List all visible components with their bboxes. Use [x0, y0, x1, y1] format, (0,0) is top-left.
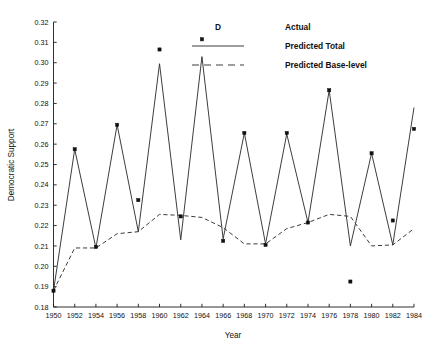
legend-marker-actual: D — [215, 22, 221, 32]
x-tick-label: 1966 — [215, 311, 231, 320]
x-tick-label: 1958 — [130, 311, 146, 320]
y-tick-labels: 0.180.190.200.210.220.230.240.250.260.27… — [35, 18, 49, 312]
y-tick-label: 0.21 — [35, 242, 49, 251]
y-axis-ticks — [54, 22, 57, 307]
x-tick-label: 1956 — [109, 311, 125, 320]
y-tick-label: 0.25 — [35, 160, 49, 169]
x-tick-label: 1972 — [279, 311, 295, 320]
y-tick-label: 0.23 — [35, 201, 49, 210]
x-tick-labels: 1950195219541956195819601962196419661968… — [46, 311, 423, 320]
y-tick-label: 0.28 — [35, 99, 49, 108]
data-point-actual — [222, 239, 225, 242]
x-tick-label: 1984 — [406, 311, 422, 320]
data-point-actual — [349, 280, 352, 283]
legend-label: Predicted Base-level — [285, 60, 367, 70]
chart-plot-area: 0.180.190.200.210.220.230.240.250.260.27… — [0, 0, 434, 345]
x-axis-ticks — [54, 304, 415, 307]
x-tick-label: 1978 — [342, 311, 358, 320]
series-predicted-base-level — [54, 214, 415, 290]
series-predicted-total — [54, 57, 415, 291]
data-point-actual — [158, 48, 161, 51]
data-point-actual — [370, 152, 373, 155]
data-point-actual — [179, 215, 182, 218]
legend-label: Predicted Total — [285, 41, 345, 51]
x-tick-label: 1968 — [236, 311, 252, 320]
y-tick-label: 0.26 — [35, 140, 49, 149]
x-tick-label: 1954 — [88, 311, 104, 320]
y-tick-label: 0.32 — [35, 18, 49, 27]
x-tick-label: 1974 — [300, 311, 316, 320]
x-tick-label: 1976 — [321, 311, 337, 320]
y-tick-label: 0.20 — [35, 262, 49, 271]
x-tick-label: 1970 — [258, 311, 274, 320]
series-actual-markers — [52, 38, 416, 293]
chart-container: 0.180.190.200.210.220.230.240.250.260.27… — [0, 0, 434, 345]
data-point-actual — [412, 127, 415, 130]
x-tick-label: 1980 — [364, 311, 380, 320]
x-tick-label: 1982 — [385, 311, 401, 320]
x-axis-title: Year — [225, 331, 242, 340]
x-tick-label: 1962 — [173, 311, 189, 320]
data-point-actual — [285, 131, 288, 134]
x-tick-label: 1960 — [152, 311, 168, 320]
data-point-actual — [94, 245, 97, 248]
y-tick-label: 0.27 — [35, 119, 49, 128]
data-point-actual — [73, 148, 76, 151]
x-tick-label: 1964 — [194, 311, 210, 320]
y-tick-label: 0.19 — [35, 282, 49, 291]
data-point-actual — [116, 123, 119, 126]
y-axis-title: Democratic Support — [7, 128, 16, 201]
chart-legend: DActualPredicted TotalPredicted Base-lev… — [192, 22, 367, 70]
x-tick-label: 1950 — [46, 311, 62, 320]
data-point-actual — [391, 219, 394, 222]
y-tick-label: 0.22 — [35, 221, 49, 230]
data-point-actual — [52, 289, 55, 292]
y-tick-label: 0.24 — [35, 180, 49, 189]
legend-label: Actual — [285, 22, 311, 32]
x-tick-label: 1952 — [67, 311, 83, 320]
y-tick-label: 0.29 — [35, 79, 49, 88]
data-point-actual — [137, 199, 140, 202]
data-point-actual — [264, 243, 267, 246]
data-point-actual — [243, 131, 246, 134]
data-point-actual — [306, 221, 309, 224]
y-tick-label: 0.31 — [35, 38, 49, 47]
data-point-actual — [328, 89, 331, 92]
data-point-actual — [200, 38, 203, 41]
y-tick-label: 0.30 — [35, 58, 49, 67]
